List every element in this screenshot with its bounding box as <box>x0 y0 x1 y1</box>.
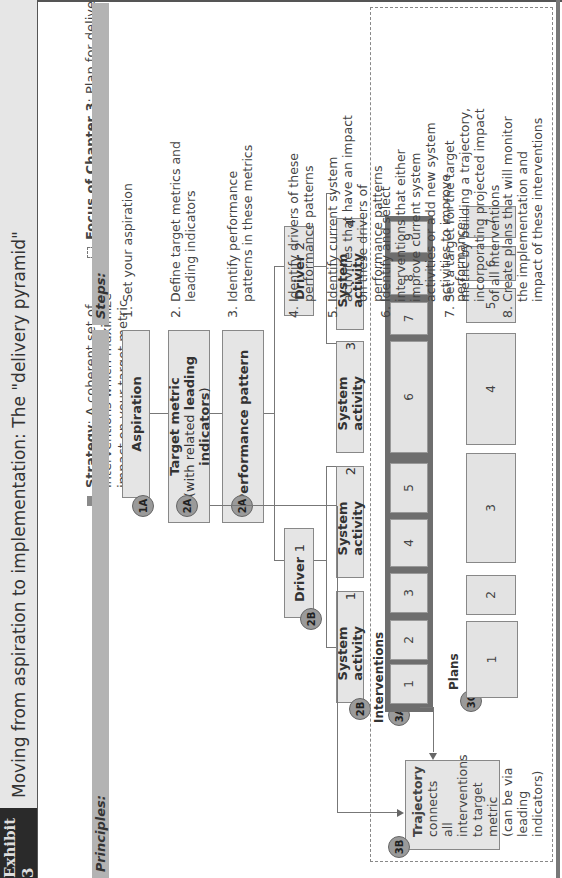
badge-2b-activity: 2B <box>349 698 371 720</box>
arrow-down-icon <box>397 809 404 817</box>
step-1: 1. Set your aspiration <box>120 8 135 318</box>
system-activity-1-box: System activity 1 <box>336 591 364 703</box>
connector-line <box>150 413 168 414</box>
intervention-4: 4 <box>390 519 428 567</box>
system-activity-3-box: System activity 3 <box>336 341 364 453</box>
step-7: 7. Set a target for the target metric by… <box>442 108 502 318</box>
delivery-pyramid-page: Exhibit 3 Moving from aspiration to impl… <box>0 0 562 878</box>
intervention-6: 6 <box>390 341 428 453</box>
connector-line <box>210 505 337 506</box>
connector-line <box>326 466 327 648</box>
system-activity-1-label: System activity <box>335 605 365 702</box>
badge-2b-driver: 2B <box>300 608 322 630</box>
trajectory-title: Trajectory <box>410 766 425 837</box>
target-metric-sub-pre: (with related <box>182 410 197 497</box>
system-activity-2-label: System activity <box>335 480 365 577</box>
plan-4: 4 <box>466 333 516 445</box>
principles-header: Principles: <box>92 330 109 878</box>
system-activity-3-label: System activity <box>335 355 365 452</box>
badge-2a-pattern: 2A <box>231 495 253 517</box>
system-activity-2-box: System activity 2 <box>336 466 364 578</box>
badge-3b: 3B <box>388 836 410 858</box>
connector-line <box>326 343 336 344</box>
step-5: 5. Identify current system activities th… <box>325 108 385 318</box>
intervention-2: 2 <box>390 620 428 660</box>
badge-2a-target: 2A <box>176 495 198 517</box>
aspiration-box: Aspiration <box>122 330 150 498</box>
connector-line <box>274 266 284 267</box>
target-metric-title: Target metric <box>167 377 182 475</box>
plan-1: 1 <box>466 621 518 698</box>
page-title: Moving from aspiration to implementation… <box>0 231 37 798</box>
connector-line <box>337 812 397 813</box>
connector-line <box>326 466 336 467</box>
intervention-1: 1 <box>390 664 428 704</box>
driver-1-label: Driver <box>292 557 307 602</box>
target-metric-box: Target metric (with related leading indi… <box>168 330 210 523</box>
interventions-label: Interventions <box>372 632 386 723</box>
connector-line <box>314 560 326 561</box>
system-activity-3-num: 3 <box>343 342 358 350</box>
steps-header: Steps: <box>92 3 109 325</box>
connector-line <box>433 707 434 752</box>
connector-line <box>210 413 222 414</box>
exhibit-label: Exhibit 3 <box>0 808 37 878</box>
target-metric-sub-post: ) <box>197 387 212 392</box>
badge-1a: 1A <box>132 495 154 517</box>
step-3: 3. Identify performance patterns in thes… <box>225 118 255 318</box>
arrow-left-icon <box>429 753 437 760</box>
step-8: 8. Create plans that will monitor the im… <box>500 108 545 318</box>
plan-2: 2 <box>466 575 516 615</box>
connector-line <box>274 560 284 561</box>
step-4: 4. Identify drivers of these performance… <box>286 128 316 318</box>
connector-line <box>274 266 275 561</box>
page-edge <box>37 0 562 2</box>
plan-3: 3 <box>466 453 516 563</box>
trajectory-box: Trajectory connects all interventions to… <box>405 760 500 850</box>
driver-1-num: 1 <box>292 544 307 552</box>
intervention-5: 5 <box>390 463 428 513</box>
intervention-3: 3 <box>390 573 428 613</box>
driver-1-box: Driver 1 <box>284 528 314 618</box>
target-metric-subtitle: (with related leading indicators) <box>182 331 212 522</box>
connector-line <box>337 506 338 813</box>
plans-label: Plans <box>447 653 461 690</box>
step-2: 2. Define target metrics and leading ind… <box>168 133 198 318</box>
system-activity-1-num: 1 <box>343 592 358 600</box>
connector-line <box>264 413 274 414</box>
system-activity-2-num: 2 <box>343 467 358 475</box>
connector-line <box>420 707 434 708</box>
page-bottom-edge <box>556 0 560 878</box>
